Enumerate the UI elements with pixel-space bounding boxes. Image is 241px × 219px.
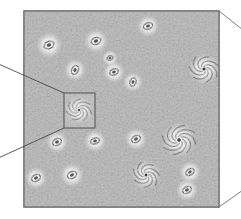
galaxy-elliptical [84,130,106,152]
figure-canvas [0,0,241,219]
galaxy-elliptical [176,179,198,201]
perspective-lines-group [219,11,241,207]
figure-svg [0,0,241,219]
galaxy-elliptical [137,15,159,37]
galaxy-elliptical [64,59,86,81]
perspective-line-bottom-right [219,190,241,207]
galaxy-elliptical [84,29,108,53]
galaxy-elliptical [60,163,84,187]
galaxy-elliptical [36,32,62,58]
galaxy-elliptical [102,50,118,66]
galaxy-elliptical [123,72,143,92]
galaxy-elliptical [25,167,47,189]
magnifier-selection-box[interactable] [64,93,95,128]
perspective-line-top-right [219,11,241,30]
field-contents [24,11,222,207]
galaxy-elliptical [125,128,147,150]
